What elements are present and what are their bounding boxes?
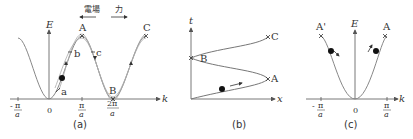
caption-a: (a): [73, 119, 87, 130]
motion-arrow-icon: [334, 51, 339, 56]
tick-neg-pi-over-a-c: - π a: [312, 101, 325, 119]
e-axis-label: E: [45, 19, 54, 30]
point-c-label: c: [96, 47, 102, 58]
t-axis-label: t: [189, 15, 194, 26]
point-A-label-b: A: [270, 73, 279, 84]
tick-pi-over-a: π a: [78, 101, 86, 119]
point-markers: [56, 34, 148, 101]
point-B-label: B: [109, 85, 116, 96]
field-force-header: 電場 力: [80, 4, 127, 17]
svg-text:-: -: [312, 102, 315, 111]
caption-b: (b): [232, 119, 246, 130]
tick-2pi-over-a: 2π a: [107, 99, 119, 118]
electron-dot-left: [328, 48, 334, 54]
point-A-label: A: [78, 22, 87, 33]
svg-text:π: π: [79, 101, 84, 110]
point-A-prime-label: A': [315, 21, 326, 32]
motion-arrow-icon: [368, 45, 372, 52]
band-diagram: 電場 力 E k - π a 0 π a 2π a: [0, 0, 413, 139]
electron-dot-b: [219, 86, 225, 92]
e-axis-label-c: E: [350, 18, 359, 29]
x-axis-label: x: [277, 93, 283, 104]
point-a-label: a: [61, 86, 67, 97]
electron-dot-right: [373, 48, 379, 54]
svg-text:π: π: [318, 101, 323, 110]
point-b-label: b: [74, 48, 80, 59]
svg-text:a: a: [79, 110, 84, 119]
svg-text:π: π: [384, 101, 389, 110]
svg-text:a: a: [318, 110, 323, 119]
k-axis-label-c: k: [399, 93, 405, 104]
svg-text:a: a: [384, 110, 389, 119]
point-C-label-b: C: [271, 31, 279, 42]
electron-dot: [59, 75, 65, 81]
panel-b: t x A B C (b): [189, 15, 283, 130]
svg-text:a: a: [110, 109, 115, 118]
tick-neg-pi-over-a: - π a: [10, 101, 22, 119]
tick-zero: 0: [47, 106, 52, 115]
svg-text:-: -: [10, 102, 13, 111]
caption-c: (c): [344, 119, 357, 130]
band-curve-c: [321, 36, 387, 99]
trajectory-outer: [59, 34, 146, 101]
direction-arrow-icon: [129, 61, 133, 65]
svg-text:a: a: [15, 110, 20, 119]
tick-zero-c: 0: [353, 106, 358, 115]
point-A-label-c: A: [382, 21, 391, 32]
tick-pi-over-a-c: π a: [383, 101, 391, 119]
point-B-label-b: B: [200, 53, 207, 64]
position-time-curve: [191, 37, 268, 99]
k-axis-label: k: [162, 93, 168, 104]
point-C-label: C: [143, 22, 151, 33]
band-curve: [18, 36, 146, 99]
force-label: 力: [115, 4, 123, 14]
panel-c: E k - π a 0 π a A' A (c): [306, 18, 405, 130]
point-markers-c: [319, 34, 387, 38]
svg-text:π: π: [15, 101, 20, 110]
field-label: 電場: [84, 4, 100, 14]
panel-a: E k - π a 0 π a 2π a: [10, 19, 168, 130]
motion-arrow-icon: [230, 83, 242, 86]
